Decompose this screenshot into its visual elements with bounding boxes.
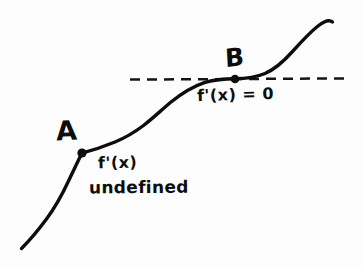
derivative-undefined-annotation-line1: f'(x)	[98, 155, 138, 172]
derivative-undefined-annotation-line2: undefined	[89, 179, 189, 197]
point-b-marker	[231, 75, 240, 84]
sketch-page: { "figure": { "title": "Hand-drawn sketc…	[0, 0, 362, 267]
function-curve-lower-branch	[22, 153, 82, 248]
derivative-zero-annotation: f'(x) = 0	[197, 86, 274, 104]
point-b-label: B	[224, 44, 244, 71]
function-curve-upper-branch	[235, 21, 333, 79]
point-a-label: A	[55, 116, 77, 144]
point-a-marker	[77, 148, 86, 157]
function-sketch-figure	[0, 0, 362, 267]
